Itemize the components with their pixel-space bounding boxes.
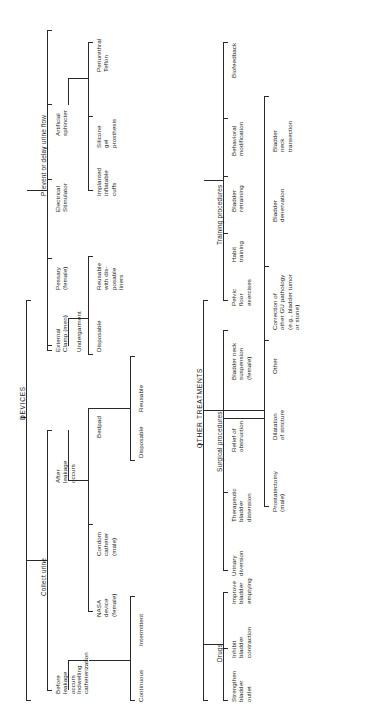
urinary-diversion-label: Urinary diversion: [230, 550, 245, 576]
biofeedback-label: Biofeedback: [230, 43, 237, 78]
relief-obstruction-cap-bottom: [264, 506, 269, 507]
prevent-delay-label: Prevent or delay urine flow: [40, 115, 47, 196]
tick-silicone-prosthesis: [88, 116, 93, 117]
other-treatments-trunk-cap-top: [203, 300, 208, 301]
external-clamp-label: External Clamp (men): [54, 315, 69, 352]
collect-urine-cap-bottom: [47, 690, 52, 691]
bladder-denervation-label: Bladder denervation: [271, 189, 286, 222]
external-clamp-down: [68, 318, 69, 346]
before-leakage-label: Before leakage occurs: [54, 672, 76, 694]
surgical-procedures-label: Surgical procedures: [216, 411, 223, 472]
training-procedures-stem: [204, 180, 223, 181]
drugs-cap-bottom: [223, 700, 228, 701]
intermittent-label: Intermittent: [137, 614, 144, 646]
behavioral-modification-label: Behavioral modification: [230, 122, 245, 156]
undergarment-cap-bottom: [88, 354, 93, 355]
implanted-cuffs-label: Implanted inflatable cuffs: [95, 168, 117, 196]
artificial-sphincter-cap-bottom: [88, 190, 93, 191]
tick-behavioral-modification: [223, 118, 228, 119]
habit-training-label: Habit training: [230, 241, 245, 262]
indwelling-catheterization-label: Indwelling catheterization: [75, 652, 90, 694]
prevent-delay-cap-bottom: [47, 350, 52, 351]
tick-condom-catheter: [88, 524, 93, 525]
indwelling-stem: [89, 660, 130, 661]
tick-artificial-sphincter: [47, 104, 52, 105]
inhibit-bladder-contraction-label: Inhibit bladder contraction: [230, 627, 252, 658]
tick-electrical-stimulator: [47, 179, 52, 180]
nasa-device-label: NASA device (female): [95, 594, 117, 618]
indwelling-cap-bottom: [130, 700, 135, 701]
tick-bladder-denervation: [264, 266, 269, 267]
prevent-delay-cap-top: [47, 30, 52, 31]
artificial-sphincter-down: [68, 78, 69, 105]
training-procedures-cap-bottom: [223, 300, 228, 301]
artificial-sphincter-stem: [68, 78, 88, 79]
surgical-second-row-cap-top: [264, 96, 269, 97]
undergarment-cap-top: [88, 256, 93, 257]
surgical-second-row-stem: [224, 410, 264, 411]
bedpad-spine: [130, 356, 131, 460]
bedpad-label: Bedpad: [95, 416, 102, 438]
collect-urine-cap-top: [47, 430, 52, 431]
bedpad-stem: [89, 408, 130, 409]
devices-trunk-line: [26, 300, 27, 700]
indwelling-cap-top: [130, 596, 135, 597]
pessary-label: Pessary (female): [54, 267, 69, 291]
after-leakage-cap-bottom: [88, 611, 93, 612]
electrical-stimulator-label: Electrical Stimulator: [54, 183, 69, 212]
dilatation-of-stricture-label: Dilatation of stricture: [271, 410, 286, 440]
before-leakage-down: [68, 660, 69, 690]
bedpad-cap-top: [130, 356, 135, 357]
undergarment-label: Undergarment: [75, 311, 82, 352]
bladder-neck-transection-label: Bladder neck transection: [271, 121, 293, 152]
tick-inhibit-bladder-contraction: [223, 648, 228, 649]
devices-trunk-cap-top: [26, 300, 31, 301]
bedpad-disposable-label: Disposable: [137, 426, 144, 458]
continuous-label: Continuous: [137, 670, 144, 702]
tick-habit-training: [223, 233, 228, 234]
artificial-sphincter-cap-top: [88, 42, 93, 43]
periurethral-teflon-label: Periurethral Teflon: [95, 39, 110, 72]
bladder-neck-suspension-label: Bladder neck suspension (female): [230, 343, 252, 380]
strengthen-bladder-outlet-label: Strengthen bladder outlet: [230, 671, 252, 702]
drugs-cap-top: [223, 592, 228, 593]
other-label: Other: [271, 358, 278, 374]
undergarment-disposable-label: Disposable: [95, 320, 102, 352]
pelvic-floor-exercises-label: Pelvic floor exercises: [230, 279, 252, 306]
surgical-procedures-cap-bottom: [223, 570, 228, 571]
tick-pessary: [47, 258, 52, 259]
indwelling-spine: [130, 596, 131, 700]
relief-of-obstruction-label: Relief of obstruction: [230, 421, 245, 452]
training-procedures-cap-top: [223, 42, 228, 43]
after-leakage-down: [68, 430, 69, 480]
bedpad-cap-bottom: [130, 460, 135, 461]
undergarment-spine: [88, 256, 89, 354]
devices-root-title: DEVICES: [19, 386, 27, 420]
other-treatments-root-title: OTHER TREATMENTS: [196, 368, 204, 448]
tick-therapeutic-bladder-distension: [223, 492, 228, 493]
condom-catheter-label: Condom catheter (male): [95, 532, 117, 556]
drugs-label: Drugs: [216, 644, 223, 662]
bladder-retraining-label: Bladder retraining: [230, 185, 245, 212]
surgical-second-row-spine: [264, 96, 265, 410]
collect-urine-label: Collect urine: [40, 558, 47, 596]
tick-bladder-retraining: [223, 176, 228, 177]
devices-trunk-cap-bottom: [26, 700, 31, 701]
other-treatments-trunk-cap-bottom: [203, 700, 208, 701]
training-procedures-label: Training procedures: [216, 185, 223, 245]
training-procedures-spine: [223, 42, 224, 300]
after-leakage-child-spine: [88, 408, 89, 611]
after-leakage-stem: [68, 480, 88, 481]
artificial-sphincter-label: Artificial sphincter: [54, 110, 69, 136]
silicone-prosthesis-label: Silicone gel prosthesis: [95, 119, 117, 148]
therapeutic-bladder-distension-label: Therapeutic bladder distension: [230, 488, 252, 522]
correction-gu-pathology-label: Correction of other GU pathology (e.g., …: [271, 274, 301, 330]
improve-bladder-emptying-label: Improve bladder emptying: [230, 578, 252, 604]
other-treatments-trunk-line: [203, 300, 204, 700]
prostatectomy-label: Prostatectomy (male): [271, 471, 286, 512]
tick-external-clamp: [47, 345, 52, 346]
undergarment-reusable-label: Reusable with dis- posable liners: [95, 263, 125, 290]
relief-obstruction-child-stem: [224, 418, 264, 419]
surgical-procedures-cap-top: [223, 330, 228, 331]
bedpad-reusable-label: Reusable: [137, 385, 144, 412]
